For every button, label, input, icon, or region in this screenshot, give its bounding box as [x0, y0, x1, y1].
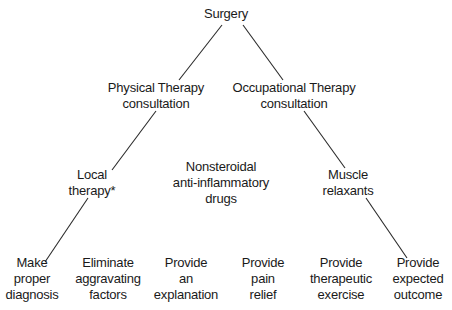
- node-label: Provide: [242, 255, 285, 271]
- node-label: relaxants: [323, 183, 374, 199]
- node-label: diagnosis: [5, 287, 58, 303]
- node-label: relief: [242, 287, 285, 303]
- node-label: therapy*: [69, 183, 116, 199]
- node-label: proper: [5, 271, 58, 287]
- node-label: pain: [242, 271, 285, 287]
- node-label: Occupational Therapy: [233, 80, 356, 96]
- edge-surgery-pt: [179, 25, 222, 80]
- node-occupational-therapy-consultation: Occupational Therapy consultation: [233, 80, 356, 112]
- node-surgery: Surgery: [204, 6, 248, 22]
- node-label: expected: [392, 271, 443, 287]
- node-label: Local: [69, 167, 116, 183]
- node-physical-therapy-consultation: Physical Therapy consultation: [108, 80, 204, 112]
- node-label: consultation: [108, 96, 204, 112]
- node-label: Make: [5, 255, 58, 271]
- node-provide-explanation: Provide an explanation: [154, 255, 218, 303]
- node-make-proper-diagnosis: Make proper diagnosis: [5, 255, 58, 303]
- edge-muscle-outcome: [366, 198, 407, 258]
- node-label: explanation: [154, 287, 218, 303]
- node-provide-expected-outcome: Provide expected outcome: [392, 255, 443, 303]
- node-muscle-relaxants: Muscle relaxants: [323, 167, 374, 199]
- node-label: Physical Therapy: [108, 80, 204, 96]
- node-label: consultation: [233, 96, 356, 112]
- edge-ot-muscle: [304, 111, 345, 168]
- node-local-therapy: Local therapy*: [69, 167, 116, 199]
- node-label: exercise: [310, 287, 372, 303]
- edge-surgery-ot: [243, 25, 283, 80]
- node-label: aggravating: [75, 271, 141, 287]
- node-label: drugs: [173, 191, 269, 207]
- node-eliminate-aggravating-factors: Eliminate aggravating factors: [75, 255, 141, 303]
- node-provide-therapeutic-exercise: Provide therapeutic exercise: [310, 255, 372, 303]
- node-label: Provide: [392, 255, 443, 271]
- node-label: therapeutic: [310, 271, 372, 287]
- node-label: Eliminate: [75, 255, 141, 271]
- node-provide-pain-relief: Provide pain relief: [242, 255, 285, 303]
- treatment-tree-diagram: Surgery Physical Therapy consultation Oc…: [0, 0, 452, 310]
- node-label: an: [154, 271, 218, 287]
- node-label: Provide: [154, 255, 218, 271]
- node-label: outcome: [392, 287, 443, 303]
- node-label: Provide: [310, 255, 372, 271]
- edge-local-diagnosis: [45, 198, 88, 262]
- node-label: Nonsteroidal: [173, 159, 269, 175]
- node-label: Muscle: [323, 167, 374, 183]
- node-label: anti-inflammatory: [173, 175, 269, 191]
- node-nsaids: Nonsteroidal anti-inflammatory drugs: [173, 159, 269, 207]
- node-label: factors: [75, 287, 141, 303]
- edge-pt-local: [112, 111, 156, 170]
- node-label: Surgery: [204, 6, 248, 22]
- connector-lines: [0, 0, 452, 310]
